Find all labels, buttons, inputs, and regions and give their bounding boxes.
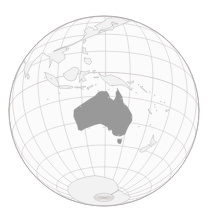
island-point-5 bbox=[160, 101, 161, 102]
island-point-34 bbox=[103, 127, 104, 128]
island-point-37 bbox=[73, 116, 74, 117]
island-point-38 bbox=[47, 99, 48, 100]
island-point-3 bbox=[138, 84, 139, 85]
island-point-35 bbox=[88, 127, 89, 128]
island-point-33 bbox=[109, 130, 110, 131]
island-point-45 bbox=[119, 78, 120, 79]
landmass-fiji bbox=[166, 110, 168, 112]
island-point-23 bbox=[149, 91, 150, 92]
landmass-ceram bbox=[94, 77, 99, 78]
island-point-11 bbox=[108, 97, 109, 98]
island-point-15 bbox=[117, 88, 118, 89]
island-point-17 bbox=[150, 124, 151, 125]
island-point-0 bbox=[154, 104, 155, 105]
island-point-9 bbox=[124, 103, 125, 104]
globe-figure bbox=[0, 0, 214, 222]
island-point-22 bbox=[154, 95, 155, 96]
island-point-19 bbox=[68, 87, 69, 88]
island-point-21 bbox=[88, 89, 89, 90]
island-point-12 bbox=[98, 90, 99, 91]
island-point-44 bbox=[112, 85, 113, 86]
island-point-41 bbox=[44, 77, 45, 78]
island-point-4 bbox=[131, 89, 132, 90]
island-point-13 bbox=[108, 89, 109, 90]
island-point-24 bbox=[132, 87, 133, 88]
island-point-10 bbox=[121, 98, 122, 99]
island-point-2 bbox=[142, 86, 143, 87]
island-point-40 bbox=[51, 78, 52, 79]
island-point-28 bbox=[92, 85, 93, 86]
island-point-29 bbox=[95, 84, 96, 85]
island-point-16 bbox=[138, 126, 139, 127]
island-point-6 bbox=[164, 102, 165, 103]
island-point-31 bbox=[118, 134, 119, 135]
island-point-14 bbox=[131, 116, 132, 117]
island-point-32 bbox=[121, 137, 122, 138]
island-point-1 bbox=[154, 106, 155, 107]
island-point-18 bbox=[59, 93, 60, 94]
island-point-8 bbox=[156, 110, 157, 111]
island-point-7 bbox=[168, 109, 169, 110]
island-point-43 bbox=[105, 73, 106, 74]
globe-map-svg bbox=[0, 0, 214, 222]
island-point-42 bbox=[98, 72, 99, 73]
island-point-27 bbox=[82, 89, 83, 90]
island-point-30 bbox=[153, 143, 154, 144]
island-point-39 bbox=[58, 86, 59, 87]
island-point-20 bbox=[77, 87, 78, 88]
island-point-25 bbox=[135, 92, 136, 93]
island-point-26 bbox=[81, 88, 82, 89]
island-point-36 bbox=[80, 106, 81, 107]
